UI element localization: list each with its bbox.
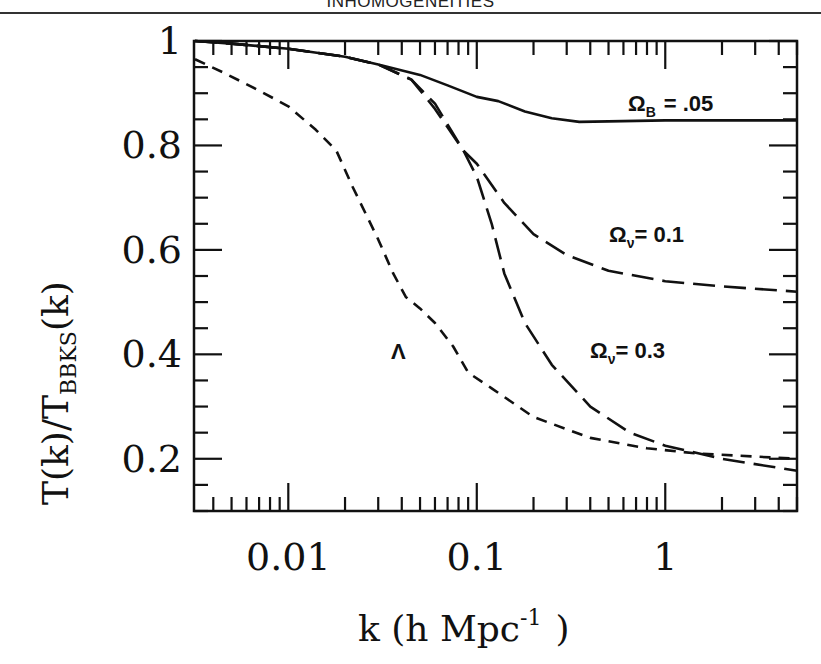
curve-omega-nu-0-1 (195, 41, 797, 292)
x-tick-label: 0.01 (246, 535, 331, 579)
axis-tick-labels: 0.010.110.20.40.60.81 (122, 19, 678, 579)
label-omega-nu-0.1: Ων= 0.1 (609, 222, 684, 251)
label-lambda: Λ (391, 339, 406, 364)
x-axis-title: k (h Mpc-1) (358, 605, 569, 649)
y-tick-label: 0.6 (122, 228, 182, 272)
y-tick-label: 0.4 (122, 332, 182, 376)
label-omega-b: ΩB= .05 (628, 91, 713, 120)
y-tick-label: 0.2 (122, 437, 182, 481)
y-axis-title: T(k)/TBBKS(k) (35, 281, 81, 505)
y-tick-label: 0.8 (122, 123, 182, 167)
x-tick-label: 0.1 (447, 535, 507, 579)
x-tick-label: 1 (653, 535, 677, 579)
label-omega-nu-0.3: Ων= 0.3 (590, 338, 665, 367)
y-tick-label: 1 (158, 19, 182, 63)
transfer-function-chart: 0.010.110.20.40.60.81 T(k)/TBBKS(k) k (h… (0, 0, 821, 664)
